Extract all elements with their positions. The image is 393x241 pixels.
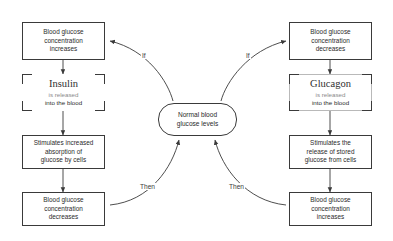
bracket-top-left-icon	[22, 74, 32, 84]
node-left-action-line2: absorption of	[45, 148, 82, 156]
hormone-name-insulin: Insulin	[49, 78, 78, 90]
node-right-result-line1: Blood glucose	[310, 196, 350, 204]
node-right-result-line2: concentration	[311, 205, 350, 213]
node-right-action-line3: glucose from cells	[305, 156, 357, 164]
bracket-bottom-left-icon	[22, 101, 32, 111]
node-right-trigger-line3: decreases	[316, 45, 346, 53]
bracket-top-left-icon	[289, 74, 299, 84]
node-left-result-line1: Blood glucose	[43, 196, 83, 204]
node-left-action-line3: glucose by cells	[41, 156, 86, 164]
node-right-result: Blood glucose concentration increases	[289, 192, 372, 226]
node-left-result: Blood glucose concentration decreases	[22, 192, 105, 226]
node-right-trigger-line2: concentration	[311, 37, 350, 45]
node-left-trigger-line3: increases	[50, 45, 78, 53]
edge-label-then-left: Then	[139, 183, 156, 190]
hormone-sub-insulin-line2: into the blood	[45, 99, 82, 107]
node-left-result-line2: concentration	[44, 205, 83, 213]
edge-then-right	[215, 140, 286, 205]
node-right-trigger-line1: Blood glucose	[310, 28, 350, 36]
node-left-action: Stimulates increased absorption of gluco…	[22, 135, 105, 169]
node-right-action-line1: Stimulates the	[310, 139, 351, 147]
node-left-hormone-insulin: Insulin is released into the blood	[22, 74, 105, 111]
node-center-line1: Normal blood	[178, 111, 217, 120]
node-left-trigger-line2: concentration	[44, 37, 83, 45]
edge-label-if-left: If	[141, 52, 147, 59]
node-center-normal-glucose: Normal blood glucose levels	[158, 103, 237, 136]
node-right-trigger: Blood glucose concentration decreases	[289, 22, 372, 60]
edge-if-left	[110, 41, 173, 101]
bracket-top-right-icon	[95, 74, 105, 84]
node-left-action-line1: Stimulates increased	[34, 139, 94, 147]
edge-then-left	[110, 140, 179, 205]
node-right-hormone-glucagon: Glucagon is released into the blood	[289, 74, 372, 111]
edge-label-if-right: If	[245, 52, 251, 59]
node-left-result-line3: decreases	[49, 213, 79, 221]
bracket-bottom-right-icon	[362, 101, 372, 111]
node-right-action: Stimulates the release of stored glucose…	[289, 135, 372, 169]
node-center-line2: glucose levels	[177, 120, 218, 129]
node-left-trigger-line1: Blood glucose	[43, 28, 83, 36]
hormone-thin-frame	[289, 74, 372, 111]
bracket-bottom-left-icon	[289, 101, 299, 111]
bracket-bottom-right-icon	[95, 101, 105, 111]
diagram-canvas: Blood glucose concentration increases In…	[0, 0, 393, 241]
node-right-result-line3: increases	[317, 213, 345, 221]
bracket-top-right-icon	[362, 74, 372, 84]
hormone-sub-insulin: is released into the blood	[45, 91, 82, 107]
edge-if-right	[221, 41, 286, 101]
node-left-trigger: Blood glucose concentration increases	[22, 22, 105, 60]
hormone-sub-insulin-line1: is released	[45, 91, 82, 99]
edge-label-then-right: Then	[228, 183, 245, 190]
node-right-action-line2: release of stored	[307, 148, 355, 156]
